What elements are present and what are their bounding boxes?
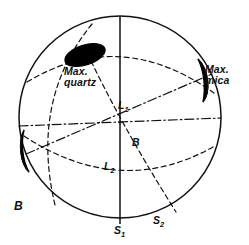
stereonet-center-point [118, 120, 121, 123]
label-lineation-1-subscript: 1 [125, 105, 129, 114]
figure-label: B [14, 200, 23, 212]
label-max-quartz-line2: quartz [64, 77, 96, 88]
label-max-mica-line2: mica [205, 75, 229, 86]
label-s-surface-2: S2 [153, 215, 164, 229]
label-max-quartz: Max. quartz [64, 66, 96, 87]
label-lineation-2-subscript: 2 [111, 166, 115, 175]
label-lineation-1: L1 [118, 100, 129, 114]
stereonet-diagram [0, 0, 249, 245]
label-s-surface-2-subscript: 2 [160, 220, 164, 229]
stereonet-figure: Max. quartz Max. mica L1 L2 B S1 S2 B [0, 0, 249, 245]
label-s-surface-1-subscript: 1 [121, 230, 125, 239]
label-lineation-2: L2 [104, 161, 115, 175]
label-s-surface-1: S1 [114, 225, 125, 239]
label-b-axis: B [132, 137, 140, 148]
label-max-mica: Max. mica [205, 64, 229, 85]
